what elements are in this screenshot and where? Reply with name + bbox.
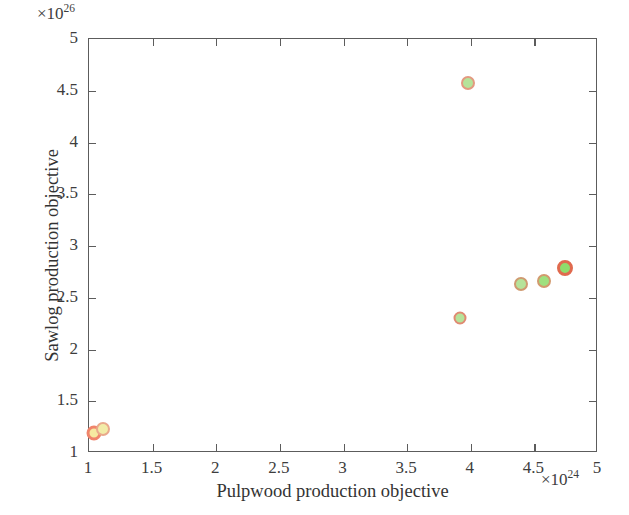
x-tick-label: 1.5 xyxy=(141,458,162,478)
x-tick-bottom xyxy=(407,444,408,451)
y-tick-right xyxy=(589,91,596,92)
x-tick-label: 5 xyxy=(593,458,602,478)
y-axis-exponent-label: ×1026 xyxy=(37,4,75,24)
y-tick-right xyxy=(589,143,596,144)
x-tick-label: 1 xyxy=(84,458,93,478)
x-tick-top xyxy=(344,39,345,46)
y-tick-left xyxy=(89,194,96,195)
y-tick-left xyxy=(89,91,96,92)
y-tick-left xyxy=(89,298,96,299)
x-axis-title: Pulpwood production objective xyxy=(0,481,629,502)
y-tick-left xyxy=(89,401,96,402)
x-tick-label: 4.5 xyxy=(523,458,544,478)
x-axis-title-text: Pulpwood production objective xyxy=(180,481,448,501)
y-tick-right xyxy=(589,194,596,195)
x-tick-top xyxy=(407,39,408,46)
y-tick-left xyxy=(89,350,96,351)
data-point-marker xyxy=(461,76,475,90)
x-tick-label: 3.5 xyxy=(396,458,417,478)
y-tick-label: 5 xyxy=(20,28,78,48)
x-tick-label: 2 xyxy=(211,458,220,478)
data-point-marker xyxy=(537,274,551,288)
y-tick-left xyxy=(89,143,96,144)
y-axis-title: Sawlog production objective xyxy=(42,56,63,456)
data-point-marker xyxy=(453,312,466,325)
x-tick-bottom xyxy=(153,444,154,451)
x-tick-label: 4 xyxy=(466,458,475,478)
data-point-marker xyxy=(557,260,573,276)
x-tick-top xyxy=(153,39,154,46)
x-tick-top xyxy=(534,39,535,46)
data-point-marker xyxy=(514,277,528,291)
y-tick-right xyxy=(589,246,596,247)
y-tick-right xyxy=(589,298,596,299)
plot-area xyxy=(88,38,597,452)
x-tick-bottom xyxy=(344,444,345,451)
x-tick-bottom xyxy=(280,444,281,451)
x-tick-top xyxy=(216,39,217,46)
x-tick-bottom xyxy=(471,444,472,451)
x-tick-label: 2.5 xyxy=(268,458,289,478)
x-tick-top xyxy=(471,39,472,46)
x-tick-label: 3 xyxy=(338,458,347,478)
y-tick-left xyxy=(89,246,96,247)
data-point-marker xyxy=(96,422,110,436)
x-tick-bottom xyxy=(216,444,217,451)
figure-scatter-plot: ×1026 ×1024 11.522.533.544.5511.522.533.… xyxy=(0,0,629,515)
y-tick-right xyxy=(589,350,596,351)
y-tick-right xyxy=(589,401,596,402)
x-tick-top xyxy=(280,39,281,46)
x-tick-bottom xyxy=(534,444,535,451)
